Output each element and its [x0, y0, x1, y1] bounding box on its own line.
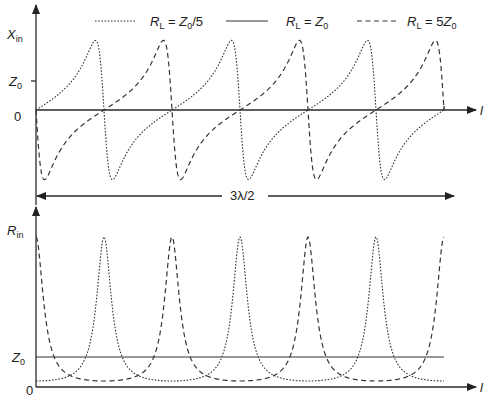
span-label: 3λ/2	[230, 188, 255, 203]
legend-item-rl-5z0: RL = 5Z0	[357, 14, 456, 31]
reactance-y-label: Xin	[6, 27, 23, 44]
resistance-y-label: Rin	[7, 223, 23, 240]
legend-label: RL = Z0/5	[150, 14, 203, 31]
legend-label: RL = Z0	[286, 14, 328, 31]
reactance-x-label: l	[480, 103, 484, 118]
transmission-line-impedance-chart: RL = Z0/5 RL = Z0 RL = 5Z0 Xin Z0 0 l	[0, 0, 493, 404]
resistance-tick-label-z0: Z0	[11, 350, 25, 367]
resistance-series-rl-5z0	[36, 237, 444, 381]
legend: RL = Z0/5 RL = Z0 RL = 5Z0	[95, 14, 456, 31]
reactance-plot: Xin Z0 0 l 3λ/2	[6, 5, 484, 205]
legend-item-rl-z0-over-5: RL = Z0/5	[95, 14, 203, 31]
legend-label: RL = 5Z0	[407, 14, 456, 31]
resistance-tick-label-0: 0	[26, 383, 33, 398]
resistance-x-label: l	[480, 380, 484, 395]
legend-item-rl-z0: RL = Z0	[226, 14, 328, 31]
reactance-tick-label-0: 0	[14, 109, 21, 124]
resistance-series-rl-z0-over-5	[36, 237, 444, 381]
reactance-tick-label-z0: Z0	[8, 74, 22, 91]
resistance-plot: Rin Z0 0 l	[7, 207, 484, 398]
